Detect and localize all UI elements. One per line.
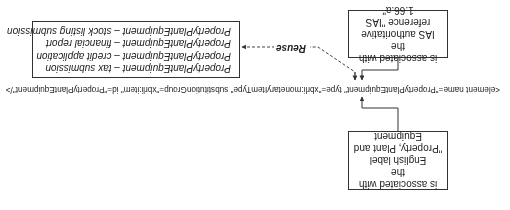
xbrl-reuse-diagram: is associated with the English label "Pr…: [0, 0, 510, 210]
label-connector-arrow: [362, 97, 398, 131]
label-line-4: Equipment: [374, 131, 422, 143]
use-item-financial: PropertyPlantEquipment – financial repor…: [41, 37, 231, 50]
reference-line-2: IAS authoritative: [361, 28, 434, 40]
reference-line-3: reference "IAS 1.66.a": [353, 4, 443, 28]
ias-reference-box: is associated with the IAS authoritative…: [348, 10, 448, 58]
reuse-uses-box: PropertyPlantEquipment – tax submission …: [32, 21, 240, 78]
label-line-3: "Property, Plant and: [354, 143, 442, 155]
reference-line-1: is associated with the: [353, 40, 443, 64]
element-declaration: <element name="PropertyPlantEquipment" t…: [6, 85, 500, 94]
use-item-credit: PropertyPlantEquipment – credit applicat…: [41, 50, 231, 63]
reuse-label: Reuse: [274, 43, 308, 54]
label-line-2: English label: [370, 155, 427, 167]
label-line-1: is associated with the: [353, 167, 443, 191]
use-item-stock: PropertyPlantEquipment – stock listing s…: [41, 25, 231, 38]
english-label-box: is associated with the English label "Pr…: [348, 131, 448, 190]
use-item-tax: PropertyPlantEquipment – tax submission: [41, 62, 231, 75]
